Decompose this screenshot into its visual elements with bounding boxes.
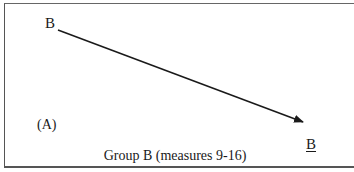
- arrow-icon: [58, 30, 303, 122]
- caption: Group B (measures 9-16): [0, 149, 350, 163]
- panel-label: (A): [37, 118, 56, 132]
- start-label: B: [45, 16, 55, 31]
